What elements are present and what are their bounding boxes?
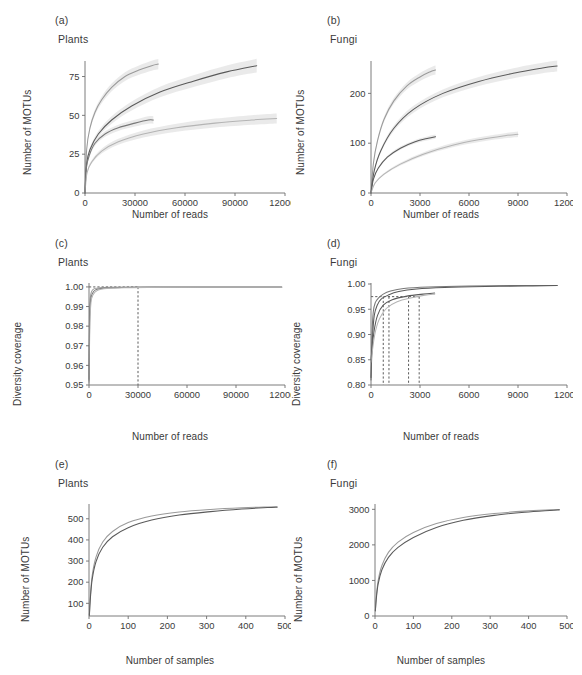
x-tick-label: 9000 bbox=[508, 389, 529, 400]
panel-d-plot: 0.800.850.900.951.00030006000900012000 bbox=[337, 277, 573, 407]
y-tick-label: 0 bbox=[74, 187, 79, 198]
x-tick-label: 0 bbox=[368, 389, 373, 400]
x-tick-label: 12000 bbox=[554, 389, 573, 400]
x-tick-label: 60000 bbox=[174, 389, 200, 400]
x-tick-label: 0 bbox=[368, 197, 373, 208]
x-tick-label: 120000 bbox=[269, 197, 291, 208]
y-tick-label: 0.98 bbox=[65, 320, 83, 331]
x-tick-label: 0 bbox=[86, 389, 91, 400]
y-tick-label: 0 bbox=[364, 610, 369, 621]
x-tick-label: 400 bbox=[521, 620, 537, 631]
panel-d-tag: (d) bbox=[327, 237, 340, 249]
y-tick-label: 0.90 bbox=[347, 329, 365, 340]
panel-a-ylabel: Number of MOTUs bbox=[22, 90, 33, 175]
x-tick-label: 300 bbox=[482, 620, 498, 631]
y-tick-label: 300 bbox=[68, 555, 84, 566]
y-tick-label: 25 bbox=[69, 148, 79, 159]
panel-a-plot: 02550750300006000090000120000 bbox=[55, 55, 291, 215]
panel-a-tag: (a) bbox=[55, 14, 68, 26]
x-tick-label: 100 bbox=[406, 620, 422, 631]
panel-e-title: Plants bbox=[58, 477, 88, 489]
panel-b-plot: 0100200030006000900012000 bbox=[337, 55, 573, 215]
panel-f-plot: 01000200030000100200300400500 bbox=[337, 498, 573, 638]
panel-d-title: Fungi bbox=[330, 256, 357, 268]
panel-e-ylabel: Number of MOTUs bbox=[20, 537, 31, 622]
y-tick-label: 1.00 bbox=[65, 281, 83, 292]
panel-e: (e) Plants Number of MOTUs Number of sam… bbox=[0, 450, 291, 675]
x-tick-label: 100 bbox=[120, 620, 136, 631]
x-tick-label: 6000 bbox=[459, 197, 480, 208]
x-tick-label: 0 bbox=[372, 620, 377, 631]
x-tick-label: 400 bbox=[238, 620, 254, 631]
panel-c-tag: (c) bbox=[55, 237, 68, 249]
x-tick-label: 60000 bbox=[172, 197, 198, 208]
x-tick-label: 120000 bbox=[269, 389, 291, 400]
panel-f-title: Fungi bbox=[330, 477, 357, 489]
y-tick-label: 100 bbox=[68, 598, 84, 609]
y-tick-label: 3000 bbox=[349, 504, 370, 515]
panel-c-title: Plants bbox=[58, 256, 88, 268]
panel-f-ylabel: Number of MOTUs bbox=[293, 537, 304, 622]
x-tick-label: 3000 bbox=[410, 389, 431, 400]
x-tick-label: 9000 bbox=[508, 197, 529, 208]
y-tick-label: 50 bbox=[69, 110, 79, 121]
panel-d: (d) Fungi Diversity coverage Number of r… bbox=[291, 228, 582, 450]
y-tick-label: 75 bbox=[69, 71, 79, 82]
panel-b-tag: (b) bbox=[327, 14, 340, 26]
y-tick-label: 0.95 bbox=[347, 304, 365, 315]
x-tick-label: 0 bbox=[86, 620, 91, 631]
x-tick-label: 30000 bbox=[122, 197, 148, 208]
x-tick-label: 200 bbox=[444, 620, 460, 631]
panel-b-title: Fungi bbox=[330, 33, 357, 45]
y-tick-label: 1.00 bbox=[347, 278, 365, 289]
panel-e-plot: 1002003004005000100200300400500 bbox=[55, 498, 291, 638]
figure-canvas: (a) Plants Number of MOTUs Number of rea… bbox=[0, 0, 582, 675]
panel-e-tag: (e) bbox=[55, 458, 68, 470]
x-tick-label: 300 bbox=[199, 620, 215, 631]
y-tick-label: 400 bbox=[68, 534, 84, 545]
panel-a: (a) Plants Number of MOTUs Number of rea… bbox=[0, 0, 291, 228]
panel-c-ylabel: Diversity coverage bbox=[12, 322, 23, 406]
x-tick-label: 90000 bbox=[222, 197, 248, 208]
y-tick-label: 200 bbox=[68, 576, 84, 587]
panel-c: (c) Plants Diversity coverage Number of … bbox=[0, 228, 291, 450]
y-tick-label: 0 bbox=[360, 187, 365, 198]
y-tick-label: 200 bbox=[350, 88, 366, 99]
panel-f-xlabel: Number of samples bbox=[331, 655, 551, 666]
y-tick-label: 500 bbox=[68, 513, 84, 524]
x-tick-label: 30000 bbox=[125, 389, 151, 400]
y-tick-label: 2000 bbox=[349, 539, 370, 550]
y-tick-label: 0.97 bbox=[65, 340, 83, 351]
y-tick-label: 0.96 bbox=[65, 360, 83, 371]
panel-a-title: Plants bbox=[58, 33, 88, 45]
panel-f: (f) Fungi Number of MOTUs Number of samp… bbox=[291, 450, 582, 675]
y-tick-label: 100 bbox=[350, 137, 366, 148]
panel-d-ylabel: Diversity coverage bbox=[291, 322, 302, 406]
x-tick-label: 0 bbox=[82, 197, 87, 208]
panel-f-tag: (f) bbox=[327, 458, 338, 470]
x-tick-label: 500 bbox=[277, 620, 291, 631]
y-tick-label: 0.80 bbox=[347, 379, 365, 390]
x-tick-label: 3000 bbox=[410, 197, 431, 208]
panel-e-xlabel: Number of samples bbox=[60, 655, 280, 666]
x-tick-label: 200 bbox=[160, 620, 176, 631]
x-tick-label: 6000 bbox=[459, 389, 480, 400]
x-tick-label: 500 bbox=[559, 620, 573, 631]
y-tick-label: 0.85 bbox=[347, 354, 365, 365]
panel-c-xlabel: Number of reads bbox=[60, 431, 280, 442]
y-tick-label: 1000 bbox=[349, 575, 370, 586]
panel-c-plot: 0.950.960.970.980.991.000300006000090000… bbox=[55, 277, 291, 407]
panel-d-xlabel: Number of reads bbox=[331, 431, 551, 442]
panel-b-ylabel: Number of MOTUs bbox=[295, 90, 306, 175]
x-tick-label: 90000 bbox=[223, 389, 249, 400]
y-tick-label: 0.95 bbox=[65, 379, 83, 390]
panel-b: (b) Fungi Number of MOTUs Number of read… bbox=[291, 0, 582, 228]
y-tick-label: 0.99 bbox=[65, 301, 83, 312]
x-tick-label: 12000 bbox=[554, 197, 573, 208]
